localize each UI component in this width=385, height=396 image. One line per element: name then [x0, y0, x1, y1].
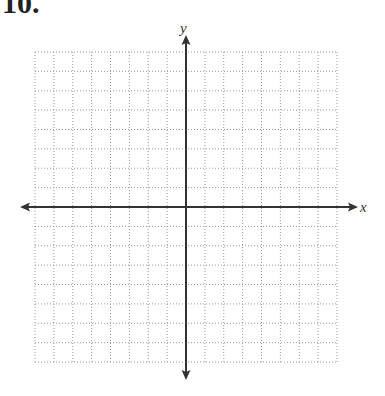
coordinate-plane: x y [0, 0, 385, 396]
y-axis: y [178, 20, 191, 380]
x-axis-label: x [359, 199, 367, 215]
x-axis: x [20, 199, 367, 215]
y-axis-label: y [178, 20, 187, 36]
